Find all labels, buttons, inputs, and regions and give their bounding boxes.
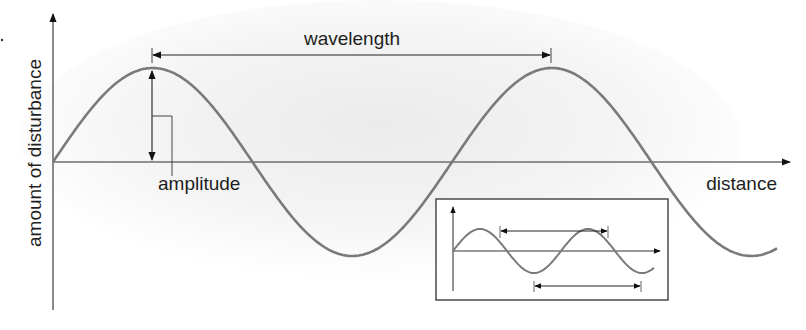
stray-dot: [1, 39, 3, 41]
y-axis-label: amount of disturbance: [24, 59, 45, 247]
inset-border: [436, 199, 668, 300]
x-axis-label: distance: [706, 173, 777, 194]
amplitude-label: amplitude: [158, 173, 240, 194]
wave-diagram: wavelength amplitude distance amount of …: [0, 0, 806, 330]
inset-diagram: [436, 199, 668, 300]
wavelength-label: wavelength: [303, 28, 400, 49]
